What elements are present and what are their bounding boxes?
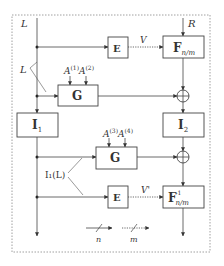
legend-m-label: m xyxy=(130,235,138,244)
r-input-label: R xyxy=(187,18,196,29)
i1l-pointer-1 xyxy=(68,158,82,173)
l-label-pointer-2 xyxy=(30,68,46,92)
g-top-label: G xyxy=(72,89,82,103)
i1l-label: I₁(L) xyxy=(45,170,65,180)
l-branch-label: L xyxy=(19,64,27,75)
v-bottom-label: V' xyxy=(141,185,150,195)
e-bottom-label: E xyxy=(113,192,121,203)
l-label-pointer-1 xyxy=(30,62,37,68)
xor-bottom-icon xyxy=(177,151,189,163)
legend-n-label: n xyxy=(96,235,101,244)
v-top-label: V xyxy=(140,35,148,45)
a1a2-label: A(1)A(2) xyxy=(63,64,94,76)
e-top-label: E xyxy=(113,43,121,54)
xor-top-icon xyxy=(177,90,189,102)
l-input-label: L xyxy=(20,18,28,29)
a3a4-label: A(3)A(4) xyxy=(102,127,133,139)
g-bottom-label: G xyxy=(110,151,120,165)
i1l-pointer-2 xyxy=(68,177,83,195)
feistel-diagram: L R L E V Fn/m A(1)A(2) G I1 I2 A(3)A(4)… xyxy=(0,0,224,266)
